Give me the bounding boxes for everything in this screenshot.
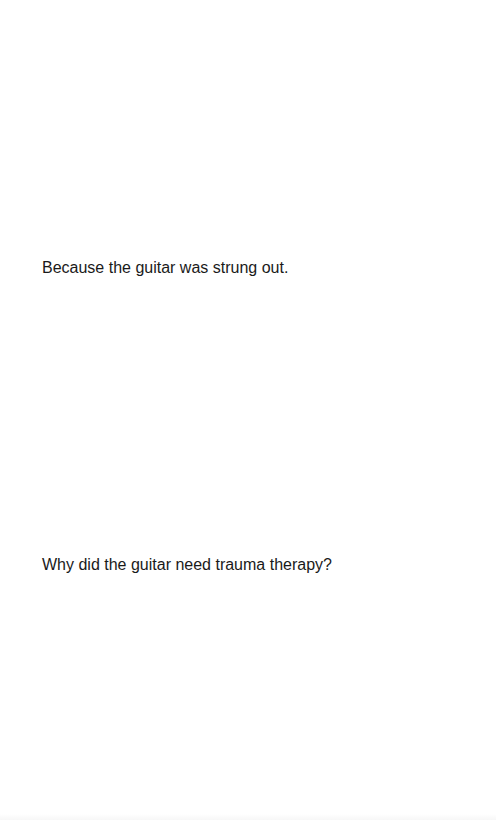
question-text: Why did the guitar need trauma therapy?	[42, 555, 332, 575]
bottom-edge	[0, 814, 496, 820]
answer-text: Because the guitar was strung out.	[42, 258, 288, 278]
